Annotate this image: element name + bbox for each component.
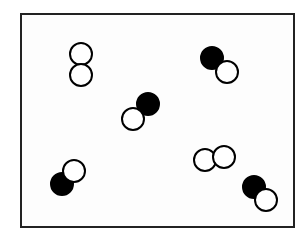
light-atom-icon <box>255 189 277 211</box>
light-atom-icon <box>213 146 235 168</box>
light-atom-icon <box>122 108 144 130</box>
molecule-light-light <box>194 146 235 171</box>
particle-diagram <box>0 0 308 237</box>
light-atom-icon <box>216 61 238 83</box>
molecule-dark-light <box>122 93 159 130</box>
molecule-dark-light <box>201 47 238 83</box>
molecule-dark-light <box>243 176 277 211</box>
light-atom-icon <box>63 160 85 182</box>
light-atom-icon <box>70 43 92 65</box>
light-atom-icon <box>70 64 92 86</box>
molecule-light-light <box>70 43 92 86</box>
molecule-dark-light <box>51 160 85 195</box>
